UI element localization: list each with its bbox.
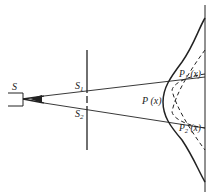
total-intensity-curve xyxy=(163,18,205,182)
p2-label: P2 (x) xyxy=(178,123,201,134)
p1-label: P1 (x) xyxy=(178,69,201,80)
beam-arrow xyxy=(23,95,44,103)
slit2-label: S2 xyxy=(75,108,84,121)
source xyxy=(8,93,23,106)
p-total-label: P (x) xyxy=(141,95,162,107)
p1-curve xyxy=(172,74,205,150)
p2-curve xyxy=(172,50,205,128)
source-label: S xyxy=(12,81,17,92)
rays xyxy=(44,77,205,128)
double-slit-diagram: S S1 S2 P (x) P1 (x) P2 (x) xyxy=(0,0,210,196)
